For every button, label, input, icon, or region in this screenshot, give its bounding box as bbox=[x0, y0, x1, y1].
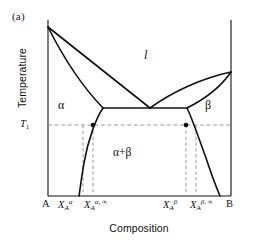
alpha-solvus-curve bbox=[79, 108, 103, 196]
x-endpoint-label-b: B bbox=[226, 198, 233, 209]
xlab-superscript: α bbox=[69, 198, 73, 206]
region-label-liquid: l bbox=[144, 48, 147, 63]
xlab-superscript: β bbox=[174, 198, 178, 206]
t1-subscript: 1 bbox=[26, 123, 30, 131]
x-tick-label-alpha-solvus: XAα bbox=[58, 198, 72, 212]
x-axis-title: Composition bbox=[59, 222, 219, 234]
x-tick-label-beta-limit: XAβ, ∞ bbox=[190, 198, 213, 212]
beta-solvus-curve bbox=[187, 108, 220, 196]
x-endpoint-label-a: A bbox=[42, 198, 50, 209]
xlab-superscript: β, ∞ bbox=[201, 198, 213, 206]
y-tick-label-t1: T1 bbox=[20, 118, 29, 131]
phase-diagram-canvas bbox=[0, 0, 258, 244]
region-label-beta: β bbox=[205, 98, 211, 113]
liquidus-curve-b-side bbox=[150, 72, 231, 108]
marker-beta-solvus-at-t1 bbox=[184, 123, 189, 128]
region-label-alpha-plus-beta: α+β bbox=[113, 146, 131, 158]
figure-panel: (a) Temperature Composition A B T1 XAα X… bbox=[0, 0, 258, 244]
x-tick-label-beta-solvus: XAβ bbox=[163, 198, 177, 212]
x-tick-label-alpha-limit: XAα, ∞ bbox=[84, 198, 107, 212]
liquidus-curve-a-side bbox=[48, 27, 150, 108]
solidus-curve-a-side bbox=[48, 27, 103, 108]
region-label-alpha: α bbox=[58, 98, 64, 113]
xlab-superscript: α, ∞ bbox=[95, 198, 107, 206]
marker-alpha-solvus-at-t1 bbox=[91, 123, 96, 128]
